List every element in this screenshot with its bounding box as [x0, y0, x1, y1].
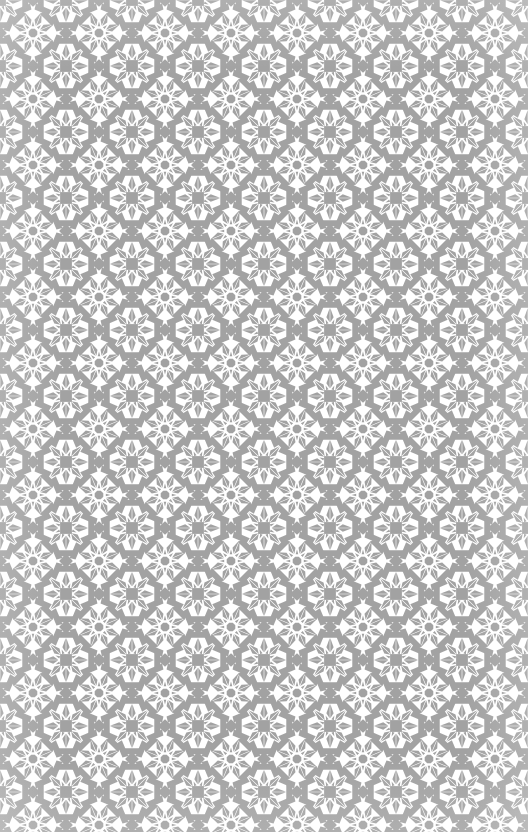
pattern-fill-rect	[0, 0, 528, 832]
pattern-canvas	[0, 0, 528, 832]
geometric-pattern-svg	[0, 0, 528, 832]
